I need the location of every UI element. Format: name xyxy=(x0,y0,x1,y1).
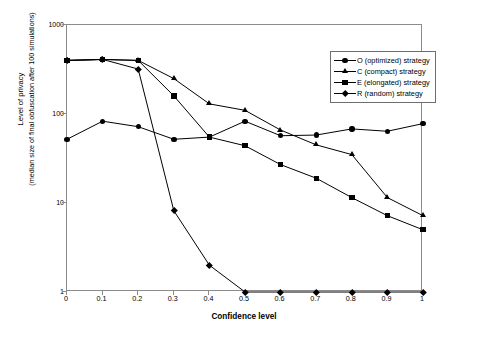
x-axis-tick-label: 0.5 xyxy=(229,295,259,303)
data-point-marker xyxy=(277,127,283,132)
legend-marker xyxy=(342,58,347,63)
x-axis-tick-label: 1 xyxy=(407,295,437,303)
legend-marker xyxy=(342,80,347,85)
data-point-marker xyxy=(313,141,319,146)
legend-marker-diamond-icon xyxy=(334,88,356,99)
data-point-marker xyxy=(206,100,212,105)
data-point-marker xyxy=(314,132,319,137)
legend-item: R (random) strategy xyxy=(334,88,430,99)
x-axis-tick-label: 0.9 xyxy=(371,295,401,303)
legend-marker xyxy=(342,68,348,73)
y-axis-tick-label: 1 xyxy=(4,288,64,295)
data-point-marker xyxy=(242,107,248,112)
data-point-marker xyxy=(242,119,247,124)
legend-item: C (compact) strategy xyxy=(334,66,430,77)
legend-label: E (elongated) strategy xyxy=(356,77,430,88)
x-axis-tick-label: 0.4 xyxy=(193,295,223,303)
legend-label: O (optimized) strategy xyxy=(356,55,430,66)
data-point-marker xyxy=(385,213,390,218)
x-axis-tick-label: 0 xyxy=(51,295,81,303)
legend-label: R (random) strategy xyxy=(356,88,423,99)
x-axis-tick-label: 0.1 xyxy=(87,295,117,303)
data-point-marker xyxy=(349,195,354,200)
y-axis-tick-label: 10 xyxy=(4,199,64,206)
legend-label: C (compact) strategy xyxy=(356,66,426,77)
x-axis-tick-label: 0.7 xyxy=(300,295,330,303)
legend-marker-triangle-icon xyxy=(334,66,356,77)
data-point-marker xyxy=(171,137,176,142)
data-point-marker xyxy=(420,212,426,217)
data-point-marker xyxy=(420,227,425,232)
data-point-marker xyxy=(420,121,425,126)
data-point-marker xyxy=(385,129,390,134)
legend-item: O (optimized) strategy xyxy=(334,55,430,66)
x-axis-title: Confidence level xyxy=(66,312,422,321)
data-point-marker xyxy=(207,134,212,139)
data-point-marker xyxy=(242,143,247,148)
legend-marker xyxy=(342,90,348,96)
chart-legend: O (optimized) strategyC (compact) strate… xyxy=(330,51,436,103)
data-point-marker xyxy=(349,126,354,131)
data-point-marker xyxy=(349,151,355,156)
y-axis-tick-label: 100 xyxy=(4,110,64,117)
data-point-marker xyxy=(136,58,141,63)
x-axis-tick-label: 0.2 xyxy=(122,295,152,303)
data-point-marker xyxy=(171,93,176,98)
data-point-marker xyxy=(314,176,319,181)
chart-figure: Level of privacy (median size of final o… xyxy=(0,0,489,337)
x-axis-tick-label: 0.6 xyxy=(265,295,295,303)
data-point-marker xyxy=(384,194,390,199)
legend-marker-square-icon xyxy=(334,77,356,88)
legend-marker-circle-icon xyxy=(334,55,356,66)
legend-item: E (elongated) strategy xyxy=(334,77,430,88)
x-axis-tick-label: 0.8 xyxy=(336,295,366,303)
y-axis-tick-label: 1000 xyxy=(4,21,64,28)
x-axis-tick-label: 0.3 xyxy=(158,295,188,303)
data-point-marker xyxy=(64,137,69,142)
data-point-marker xyxy=(171,75,177,80)
series-line xyxy=(67,121,423,139)
data-point-marker xyxy=(278,162,283,167)
